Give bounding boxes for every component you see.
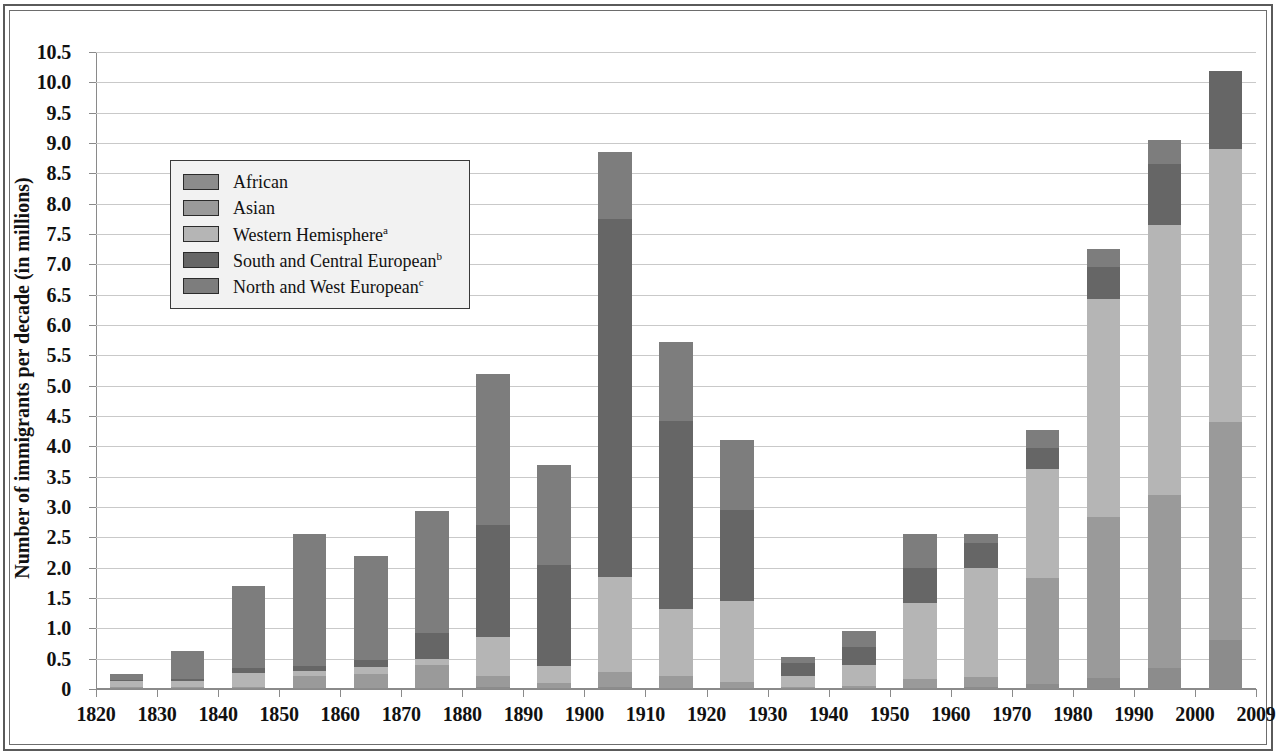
x-tick-label: 1850 bbox=[260, 703, 299, 726]
bar-segment bbox=[903, 534, 937, 567]
legend-item-african[interactable]: African bbox=[183, 169, 459, 195]
bar-segment bbox=[1148, 495, 1182, 668]
bar-segment bbox=[659, 688, 693, 689]
bar-segment bbox=[476, 374, 510, 526]
legend-item-label: African bbox=[233, 173, 288, 191]
bar-segment bbox=[598, 577, 632, 672]
bar-segment bbox=[1148, 668, 1182, 689]
y-tick-label: 2.5 bbox=[0, 527, 71, 547]
bar-segment bbox=[1209, 149, 1243, 422]
bar-segment bbox=[781, 663, 815, 676]
bar-1940 bbox=[842, 631, 876, 689]
legend-item-label: South and Central Europeanb bbox=[233, 251, 442, 270]
bar-segment bbox=[171, 679, 205, 681]
y-tick-label: 10.5 bbox=[0, 42, 71, 62]
bar-segment bbox=[903, 679, 937, 688]
bar-segment bbox=[964, 534, 998, 543]
bar-segment bbox=[659, 342, 693, 421]
bar-segment bbox=[1209, 640, 1243, 689]
bar-segment bbox=[415, 633, 449, 659]
x-tick-mark bbox=[523, 689, 524, 697]
y-tick-mark bbox=[89, 355, 96, 356]
bar-segment bbox=[598, 152, 632, 219]
y-tick-mark bbox=[89, 628, 96, 629]
legend-swatch-icon bbox=[183, 200, 219, 216]
bar-segment bbox=[720, 601, 754, 682]
bar-segment bbox=[1087, 249, 1121, 267]
x-tick-mark bbox=[1195, 689, 1196, 697]
x-tick-label: 1830 bbox=[137, 703, 176, 726]
legend-item-south-and-central-european[interactable]: South and Central Europeanb bbox=[183, 247, 459, 273]
bar-segment bbox=[232, 668, 266, 673]
y-tick-label: 7.5 bbox=[0, 224, 71, 244]
bar-segment bbox=[720, 440, 754, 510]
y-tick-mark bbox=[89, 568, 96, 569]
x-tick-mark bbox=[645, 689, 646, 697]
x-tick-mark bbox=[707, 689, 708, 697]
x-tick-label: 1940 bbox=[809, 703, 848, 726]
legend-item-asian[interactable]: Asian bbox=[183, 195, 459, 221]
x-tick-mark bbox=[584, 689, 585, 697]
x-tick-mark bbox=[96, 689, 97, 697]
bar-1920 bbox=[720, 440, 754, 689]
bar-segment bbox=[903, 688, 937, 689]
bar-segment bbox=[1026, 430, 1060, 448]
bar-segment bbox=[293, 671, 327, 676]
x-tick-mark bbox=[1012, 689, 1013, 697]
bar-segment bbox=[1148, 225, 1182, 495]
y-tick-mark bbox=[89, 325, 96, 326]
legend-swatch-icon bbox=[183, 252, 219, 268]
bar-segment bbox=[842, 688, 876, 689]
bar-segment bbox=[293, 676, 327, 688]
y-tick-mark bbox=[89, 659, 96, 660]
x-tick-label: 1980 bbox=[1053, 703, 1092, 726]
legend-item-western-hemisphere[interactable]: Western Hemispherea bbox=[183, 221, 459, 247]
bar-segment bbox=[293, 534, 327, 666]
bar-1970 bbox=[1026, 430, 1060, 689]
x-tick-mark bbox=[951, 689, 952, 697]
bar-segment bbox=[1148, 164, 1182, 225]
bar-segment bbox=[720, 682, 754, 688]
bar-segment bbox=[842, 631, 876, 646]
legend-footnote-marker: c bbox=[419, 276, 424, 288]
legend-item-north-and-west-european[interactable]: North and West Europeanc bbox=[183, 273, 459, 299]
x-tick-label: 1900 bbox=[565, 703, 604, 726]
x-tick-mark bbox=[340, 689, 341, 697]
bar-segment bbox=[1087, 267, 1121, 299]
gridline bbox=[96, 113, 1256, 114]
x-tick-mark bbox=[462, 689, 463, 697]
y-tick-label: 7.0 bbox=[0, 254, 71, 274]
x-tick-mark bbox=[829, 689, 830, 697]
bar-segment bbox=[1209, 71, 1243, 149]
y-tick-label: 3.0 bbox=[0, 497, 71, 517]
y-tick-mark bbox=[89, 598, 96, 599]
bar-segment bbox=[1087, 678, 1121, 689]
bar-segment bbox=[598, 219, 632, 577]
legend-swatch-icon bbox=[183, 174, 219, 190]
x-tick-mark bbox=[218, 689, 219, 697]
bar-segment bbox=[537, 666, 571, 683]
y-tick-mark bbox=[89, 234, 96, 235]
y-tick-label: 0 bbox=[0, 679, 71, 699]
x-tick-label: 1950 bbox=[870, 703, 909, 726]
bar-segment bbox=[781, 688, 815, 689]
bar-segment bbox=[110, 688, 144, 689]
y-tick-label: 2.0 bbox=[0, 558, 71, 578]
y-tick-mark bbox=[89, 173, 96, 174]
bar-segment bbox=[171, 687, 205, 688]
gridline bbox=[96, 82, 1256, 83]
x-tick-mark bbox=[279, 689, 280, 697]
bar-segment bbox=[476, 687, 510, 689]
gridline bbox=[96, 325, 1256, 326]
bar-segment bbox=[354, 556, 388, 660]
bar-1870 bbox=[415, 511, 449, 689]
y-tick-mark bbox=[89, 537, 96, 538]
x-tick-label: 2000 bbox=[1175, 703, 1214, 726]
bar-segment bbox=[964, 568, 998, 677]
x-tick-label: 1960 bbox=[931, 703, 970, 726]
bar-segment bbox=[354, 660, 388, 667]
bar-segment bbox=[1148, 140, 1182, 164]
x-tick-label: 1870 bbox=[382, 703, 421, 726]
x-tick-mark bbox=[1073, 689, 1074, 697]
bar-segment bbox=[415, 511, 449, 632]
